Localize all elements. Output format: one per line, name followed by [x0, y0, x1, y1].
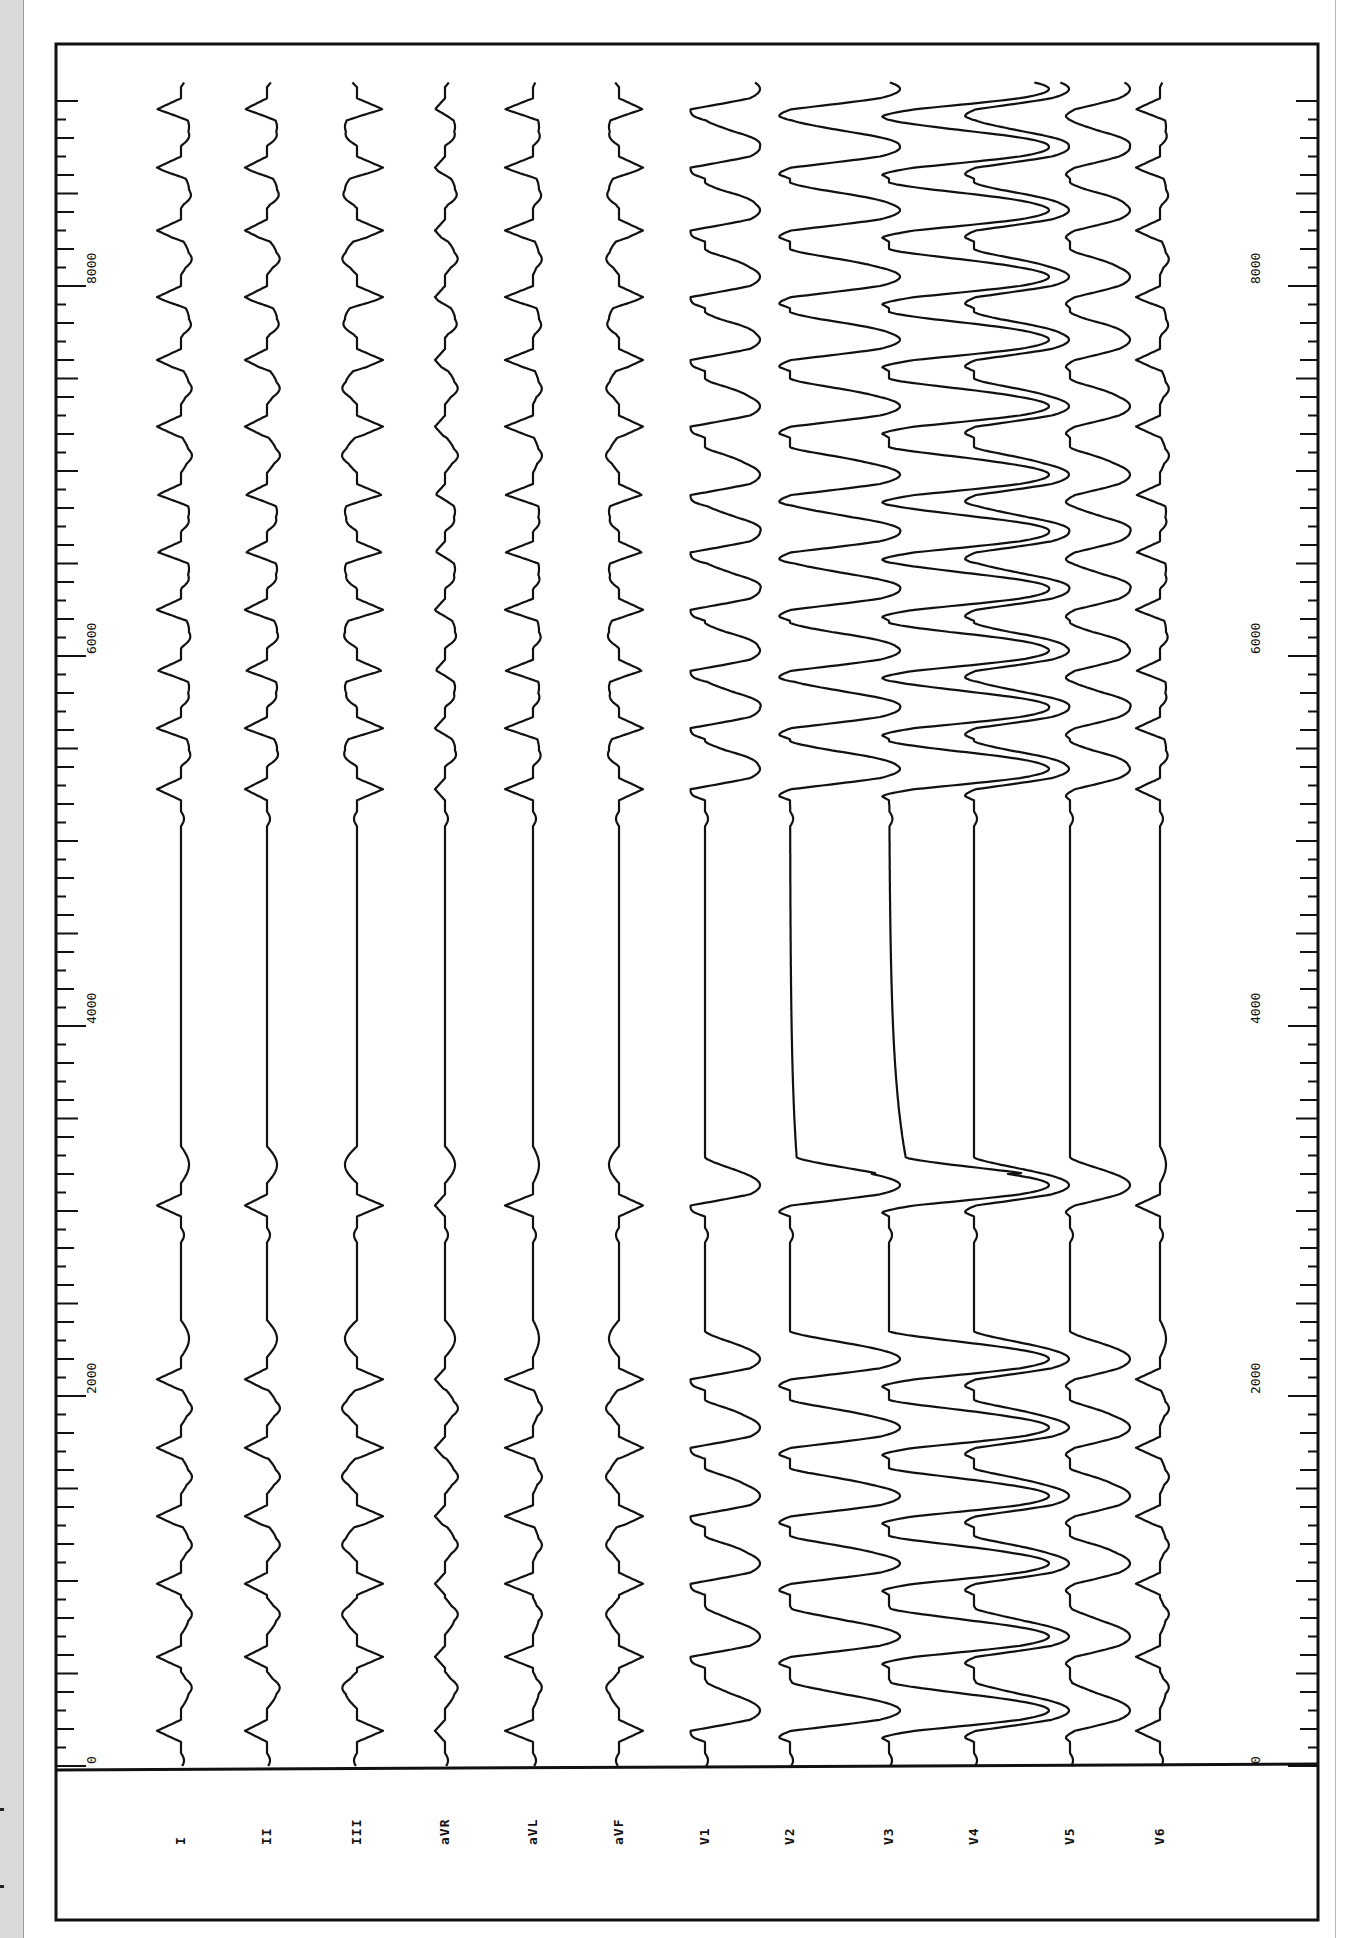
lead-label-v3: V3	[881, 1827, 896, 1845]
axis-right-label-4000: 4000	[1248, 993, 1263, 1024]
axis-left-label-4000: 4000	[84, 993, 99, 1024]
lead-label-v1: V1	[697, 1827, 712, 1845]
ecg-traces	[157, 83, 1169, 1767]
lead-label-i: I	[173, 1836, 188, 1845]
axis-left-label-8000: 8000	[84, 253, 99, 284]
lead-label-ii: II	[259, 1827, 274, 1845]
lead-label-v5: V5	[1062, 1827, 1077, 1845]
time-axis-right	[1288, 101, 1318, 1766]
lead-label-avl: aVL	[525, 1819, 540, 1845]
axis-right-label-2000: 2000	[1248, 1363, 1263, 1394]
lead-label-avf: aVF	[611, 1819, 626, 1845]
axis-right-label-8000: 8000	[1248, 253, 1263, 284]
axis-left-label-6000: 6000	[84, 623, 99, 654]
axis-left-label-2000: 2000	[84, 1363, 99, 1394]
ecg-plot	[0, 0, 1349, 1938]
axis-left-label-0: 0	[84, 1756, 99, 1764]
lead-label-v6: V6	[1152, 1827, 1167, 1845]
axis-right-label-6000: 6000	[1248, 623, 1263, 654]
lead-label-v4: V4	[966, 1827, 981, 1845]
lead-label-avr: aVR	[437, 1819, 452, 1845]
lead-label-iii: III	[349, 1819, 364, 1845]
time-axis-left	[56, 101, 86, 1766]
lead-label-v2: V2	[782, 1827, 797, 1845]
axis-right-label-0: 0	[1248, 1756, 1263, 1764]
